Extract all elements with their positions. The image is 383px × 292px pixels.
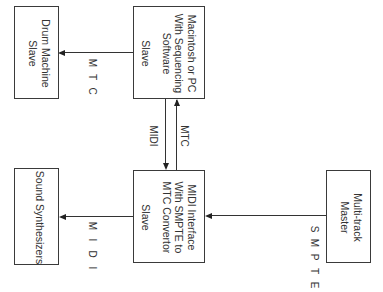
mtc-up-edge-label: MTC xyxy=(178,122,191,150)
midi-synth-arrowhead-icon xyxy=(59,214,66,220)
midi-down-arrowhead-icon xyxy=(163,163,169,170)
midi-interface-box: MIDI Interface With SMPTE to MTC Convert… xyxy=(133,170,205,263)
smpte-arrowhead-icon xyxy=(205,213,212,219)
midi-synth-connector xyxy=(65,216,133,217)
midi-synth-edge-label: M I D I xyxy=(86,219,98,275)
computer-sequencer-label: Macintosh or PC With Sequencing Software… xyxy=(140,7,198,100)
smpte-connector xyxy=(210,215,326,216)
smpte-edge-label: S M P T E xyxy=(308,222,320,292)
midi-down-connector xyxy=(165,99,166,163)
sound-synthesizers-box: Sound Synthesizers xyxy=(14,168,59,265)
mtc-drum-connector xyxy=(64,52,133,53)
midi-down-edge-label: MIDI xyxy=(147,122,160,150)
mtc-drum-arrowhead-icon xyxy=(58,50,65,56)
sound-synthesizers-label: Sound Synthesizers xyxy=(34,169,47,266)
drum-machine-label: Drum Machine Slave xyxy=(27,7,52,100)
mtc-drum-edge-label: M T C xyxy=(86,56,98,98)
multitrack-master-label: Multi-track Master xyxy=(339,171,364,264)
computer-sequencer-box: Macintosh or PC With Sequencing Software… xyxy=(133,6,205,99)
midi-interface-label: MIDI Interface With SMPTE to MTC Convert… xyxy=(140,171,198,264)
multitrack-master-box: Multi-track Master xyxy=(326,170,371,263)
mtc-up-arrowhead-icon xyxy=(174,99,180,106)
drum-machine-box: Drum Machine Slave xyxy=(14,6,59,99)
